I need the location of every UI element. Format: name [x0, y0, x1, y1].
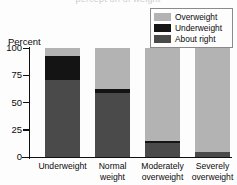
x-tick-label-line1: Normal [99, 161, 127, 171]
x-tick-label: Underweight [35, 161, 91, 172]
bar-normal-weight [95, 48, 130, 157]
x-tick-label-line1: Moderately [141, 161, 184, 171]
x-tick-label-line1: Severely [196, 161, 229, 171]
x-tick-label: Severelyoverweight [185, 161, 237, 182]
cut-off-title: percept on of weight [0, 0, 236, 7]
legend-label-underweight: Underweight [175, 24, 222, 33]
legend-swatch-underweight [154, 24, 171, 32]
bar-segment-overweight [195, 48, 230, 152]
plot-area [29, 48, 232, 157]
x-tick-label-line2: overweight [185, 172, 237, 183]
x-tick-label-line1: Underweight [38, 161, 86, 171]
bar-segment-about-right [45, 80, 80, 157]
y-tick-label: 0 [0, 152, 22, 162]
y-tick-label: 50 [0, 98, 22, 108]
x-axis-line [22, 157, 232, 158]
bar-segment-overweight [45, 48, 80, 56]
legend-swatch-about-right [154, 35, 171, 43]
legend-label-overweight: Overweight [175, 13, 217, 22]
bar-severely-overweight [195, 48, 230, 157]
x-tick-label: Normalweight [85, 161, 141, 182]
y-tick-label: 75 [0, 70, 22, 80]
cut-off-title-text: percept on of weight [75, 0, 160, 4]
bar-moderately-overweight [145, 48, 180, 157]
x-axis-labels: UnderweightNormalweightModeratelyoverwei… [29, 161, 232, 185]
legend-item-underweight: Underweight [154, 23, 229, 33]
stacked-bar-chart: percept on of weight Percent 1007550250 … [0, 0, 236, 185]
bar-segment-overweight [95, 48, 130, 89]
x-tick-label: Moderatelyoverweight [135, 161, 191, 182]
y-tick-label: 25 [0, 125, 22, 135]
bar-underweight [45, 48, 80, 157]
legend-swatch-overweight [154, 13, 171, 21]
bar-segment-about-right [195, 152, 230, 157]
bar-segment-underweight [45, 56, 80, 80]
bar-segment-about-right [145, 143, 180, 157]
y-tick-label: 100 [0, 43, 22, 53]
legend-item-overweight: Overweight [154, 12, 229, 22]
legend-label-about-right: About right [175, 35, 216, 44]
x-tick-label-line2: overweight [135, 172, 191, 183]
x-tick-label-line2: weight [85, 172, 141, 183]
legend-item-about-right: About right [154, 34, 229, 44]
legend: Overweight Underweight About right [150, 8, 233, 48]
bar-segment-overweight [145, 48, 180, 141]
bar-segment-about-right [95, 93, 130, 157]
